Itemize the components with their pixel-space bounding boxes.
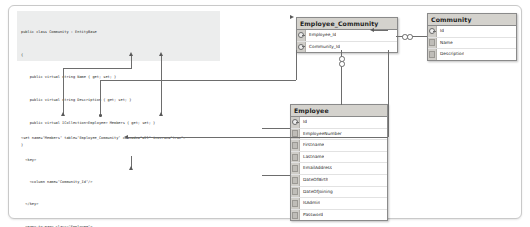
arrow-head-empcomm-left <box>290 15 294 19</box>
table-employee[interactable]: Employee Id EmployeeNumber Firstname Las… <box>290 104 388 221</box>
table-row[interactable]: Description <box>428 49 516 60</box>
xml-line: <column name="Community_Id"/> <box>21 179 259 186</box>
column-name: Id <box>300 117 307 128</box>
column-name: Id <box>437 26 444 37</box>
table-title: Community <box>428 14 516 26</box>
leader-line <box>63 68 64 114</box>
table-row[interactable]: DateOfJoining <box>291 187 387 199</box>
leader-line <box>296 50 297 80</box>
column-name: Lastname <box>300 152 324 163</box>
table-row[interactable]: DateOfBirth <box>291 175 387 187</box>
table-row[interactable]: Lastname <box>291 152 387 164</box>
leader-line <box>374 30 388 31</box>
table-row[interactable]: Community_Id <box>297 42 397 53</box>
column-name: DateOfJoining <box>300 187 333 198</box>
leader-line <box>100 80 296 81</box>
xml-mapping-block: <set name="Members" table="Employee_Comm… <box>17 117 263 181</box>
column-name: DateOfBirth <box>300 175 328 186</box>
leader-endpoint <box>99 114 102 117</box>
table-row[interactable]: Employee_Id <box>297 30 397 42</box>
primary-key-icon <box>297 42 306 53</box>
leader-line-employee-row <box>262 128 290 129</box>
arrow-head-xml-employee <box>159 112 163 116</box>
column-name: Community_Id <box>306 42 340 53</box>
table-row[interactable]: Firstname <box>291 140 387 152</box>
table-row[interactable]: Password <box>291 210 387 221</box>
xml-line: <key> <box>21 157 259 164</box>
table-row[interactable]: IsAdmin <box>291 198 387 210</box>
table-employee-community[interactable]: Employee_Community Employee_Id Community… <box>296 17 398 53</box>
column-icon <box>428 49 437 60</box>
table-row[interactable]: EmailAddress <box>291 163 387 175</box>
column-icon <box>291 175 300 186</box>
primary-key-icon <box>297 30 306 41</box>
xml-line: <many-to-many class="Employee"> <box>21 224 259 227</box>
table-row[interactable]: Name <box>428 38 516 50</box>
xml-line: </key> <box>21 201 259 208</box>
column-icon <box>428 38 437 49</box>
column-name: Employee_Id <box>306 30 336 41</box>
code-line: public virtual string Description { get;… <box>21 97 216 104</box>
arrow-head-employee-id <box>129 166 133 170</box>
column-name: EmailAddress <box>300 163 332 174</box>
primary-key-icon <box>291 117 300 128</box>
relation-zero-marker <box>339 61 345 67</box>
leader-line-employee-row <box>262 175 290 176</box>
code-line: { <box>21 52 216 59</box>
column-icon <box>291 210 300 221</box>
column-name: Description <box>437 49 464 60</box>
table-title: Employee_Community <box>297 18 397 30</box>
diagram-canvas: public class Community : EntityBase { pu… <box>0 0 530 227</box>
table-row[interactable]: EmployeeNumber <box>291 129 387 141</box>
leader-line <box>63 68 132 69</box>
column-name: Firstname <box>300 140 324 151</box>
leader-line <box>100 80 101 117</box>
relation-zero-marker <box>407 34 413 40</box>
table-title: Employee <box>291 105 387 117</box>
xml-line: <set name="Members" table="Employee_Comm… <box>21 135 259 142</box>
leader-line <box>131 56 132 68</box>
column-icon <box>291 187 300 198</box>
table-row[interactable]: Id <box>291 117 387 129</box>
column-name: Name <box>437 38 453 49</box>
primary-key-icon <box>428 26 437 37</box>
csharp-code-block: public class Community : EntityBase { pu… <box>17 11 220 61</box>
table-row[interactable]: Id <box>428 26 516 38</box>
leader-line-community-id <box>128 137 388 138</box>
code-line: public class Community : EntityBase <box>21 29 216 36</box>
column-name: Password <box>300 210 323 221</box>
arrow-head-xml-members <box>61 112 65 116</box>
column-icon <box>291 198 300 209</box>
column-name: IsAdmin <box>300 198 320 209</box>
leader-line <box>161 56 162 114</box>
column-icon <box>291 152 300 163</box>
table-community[interactable]: Community Id Name Description <box>427 13 517 61</box>
leader-line-community-id <box>388 50 389 137</box>
column-icon <box>291 140 300 151</box>
arrow-head-community-id <box>124 135 128 139</box>
column-icon <box>291 163 300 174</box>
